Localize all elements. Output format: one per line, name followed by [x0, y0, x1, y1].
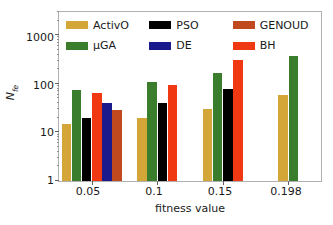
y-tick-minor	[57, 85, 60, 86]
y-tick-minor	[57, 68, 60, 69]
bar	[223, 89, 233, 181]
y-tick-major	[55, 34, 59, 35]
x-tick-major	[288, 181, 289, 185]
x-tick-major	[223, 181, 224, 185]
y-tick-label-10: 10	[14, 127, 54, 138]
bar	[92, 93, 102, 181]
x-tick-label-3: 0.198	[256, 185, 316, 198]
bar	[102, 103, 112, 181]
y-tick-minor	[57, 54, 60, 55]
y-tick-major	[55, 180, 59, 181]
legend-color-swatch	[233, 42, 255, 50]
y-axis-label: Nfe	[4, 73, 19, 113]
legend-entry[interactable]: GENOUD	[233, 16, 316, 34]
x-axis-label: fitness value	[58, 202, 322, 215]
bar	[289, 53, 299, 181]
y-tick-minor	[57, 157, 60, 158]
y-tick-minor	[57, 146, 60, 147]
y-tick-minor	[57, 108, 60, 109]
y-tick-major	[55, 131, 59, 132]
y-tick-label-1000: 1000	[14, 32, 54, 43]
y-tick-minor	[57, 117, 60, 118]
y-tick-minor	[57, 142, 60, 143]
y-tick-minor	[57, 97, 60, 98]
chart-figure: Nfe 1000 100 10 1 0.05 0.1 0.15 0.198 fi…	[0, 0, 333, 225]
bar	[158, 103, 168, 181]
y-tick-minor	[57, 90, 60, 91]
legend: ActivOμGAPSODEGENOUDBH	[62, 14, 318, 56]
y-tick-minor	[57, 165, 60, 166]
bar	[112, 110, 122, 181]
y-tick-minor	[57, 88, 60, 89]
legend-label: μGA	[93, 40, 116, 51]
bar	[278, 95, 288, 181]
x-tick-label-0: 0.05	[58, 185, 118, 198]
bar	[168, 85, 178, 181]
bar	[147, 82, 157, 181]
legend-label: PSO	[176, 20, 198, 31]
y-tick-label-100: 100	[14, 80, 54, 91]
x-tick-major	[157, 181, 158, 185]
y-tick-label-1: 1	[14, 175, 54, 186]
y-tick-minor	[57, 36, 60, 37]
y-tick-minor	[57, 139, 60, 140]
bar	[233, 60, 243, 181]
legend-color-swatch	[66, 21, 88, 29]
y-tick-minor	[57, 39, 60, 40]
bar	[137, 118, 147, 181]
x-tick-label-2: 0.15	[190, 185, 250, 198]
legend-entry[interactable]: ActivO	[66, 16, 149, 34]
legend-label: BH	[260, 40, 276, 51]
bar	[82, 118, 92, 181]
y-tick-minor	[57, 20, 60, 21]
legend-label: ActivO	[93, 20, 129, 31]
y-tick-minor	[57, 49, 60, 50]
legend-entry[interactable]: PSO	[149, 16, 232, 34]
y-tick-major	[55, 83, 59, 84]
y-tick-minor	[57, 45, 60, 46]
x-tick-major	[92, 181, 93, 185]
legend-color-swatch	[149, 42, 171, 50]
y-tick-minor	[57, 151, 60, 152]
legend-entry[interactable]: μGA	[66, 37, 149, 55]
bar	[72, 90, 82, 181]
y-tick-minor	[57, 136, 60, 137]
y-tick-minor	[57, 60, 60, 61]
legend-color-swatch	[66, 42, 88, 50]
legend-color-swatch	[149, 21, 171, 29]
legend-entry[interactable]: DE	[149, 37, 232, 55]
y-tick-minor	[57, 134, 60, 135]
legend-label: GENOUD	[260, 20, 309, 31]
legend-color-swatch	[233, 21, 255, 29]
legend-label: DE	[176, 40, 191, 51]
y-axis-label-main: N	[4, 92, 17, 100]
bar	[213, 73, 223, 181]
y-tick-minor	[57, 102, 60, 103]
y-tick-minor	[57, 94, 60, 95]
y-tick-minor	[57, 42, 60, 43]
y-tick-minor	[57, 11, 60, 12]
bar	[62, 124, 72, 181]
bar	[203, 109, 213, 181]
legend-entry[interactable]: BH	[233, 37, 316, 55]
x-tick-label-1: 0.1	[124, 185, 184, 198]
